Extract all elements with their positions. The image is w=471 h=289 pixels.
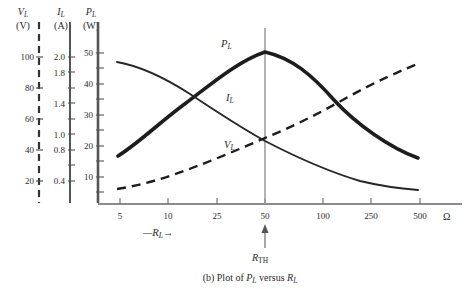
caption-subscript-rl: L xyxy=(293,276,297,285)
axis-header-il-subscript: L xyxy=(61,10,65,19)
figure-caption: (b) Plot of PL versus RL xyxy=(130,272,370,285)
il-tick-label-0-8: 0.8 xyxy=(43,146,65,155)
x-tick-label-50: 50 xyxy=(251,212,279,221)
figure-plot-pl-versus-rl: VL (V) IL (A) PL (W) 100 80 60 40 20 2.0… xyxy=(0,0,471,289)
x-tick-label-250: 250 xyxy=(357,212,385,221)
axis-header-pl-unit: (W) xyxy=(74,20,108,31)
series-curve-il xyxy=(117,62,418,190)
il-tick-label-1-8: 1.8 xyxy=(43,69,65,78)
caption-prefix: (b) Plot of xyxy=(203,272,247,283)
curve-label-vl-subscript: L xyxy=(230,143,234,152)
curve-label-vl: VL xyxy=(224,139,235,152)
axis-header-il: IL (A) xyxy=(44,6,78,31)
vl-tick-label-80: 80 xyxy=(8,84,34,93)
rth-marker-label: RTH xyxy=(252,252,268,265)
x-axis-unit-ohm: Ω xyxy=(443,211,450,222)
axis-header-pl-subscript: L xyxy=(92,10,96,19)
axis-header-il-unit: (A) xyxy=(44,20,78,31)
vl-tick-label-20: 20 xyxy=(8,177,34,186)
plot-canvas xyxy=(0,0,471,289)
axis-header-pl: PL (W) xyxy=(74,6,108,31)
il-tick-label-0-4: 0.4 xyxy=(43,177,65,186)
rth-marker-subscript: TH xyxy=(258,256,268,265)
curve-label-pl: PL xyxy=(221,38,232,51)
pl-tick-label-40: 40 xyxy=(73,80,93,89)
curve-label-il: IL xyxy=(226,92,234,105)
x-tick-label-5: 5 xyxy=(106,212,134,221)
x-axis-ticks xyxy=(120,198,420,204)
pl-tick-label-10: 10 xyxy=(73,173,93,182)
pl-tick-label-20: 20 xyxy=(73,142,93,151)
x-tick-label-100: 100 xyxy=(309,212,337,221)
series-curve-pl xyxy=(118,52,418,158)
rth-marker-arrowhead xyxy=(262,224,269,233)
curve-label-pl-subscript: L xyxy=(227,42,231,51)
caption-middle: versus xyxy=(257,272,288,283)
il-tick-label-1-4: 1.4 xyxy=(43,100,65,109)
curve-label-il-subscript: L xyxy=(230,96,234,105)
pl-tick-label-50: 50 xyxy=(73,49,93,58)
x-axis-title-suffix: → xyxy=(163,227,174,238)
il-tick-label-1-0: 1.0 xyxy=(43,131,65,140)
x-axis-title: —RL→ xyxy=(143,227,173,240)
x-axis-title-prefix: — xyxy=(143,227,152,238)
axis-header-vl-subscript: L xyxy=(24,10,28,19)
vl-tick-label-60: 60 xyxy=(8,115,34,124)
vl-tick-label-100: 100 xyxy=(8,53,34,62)
x-tick-label-10: 10 xyxy=(154,212,182,221)
il-tick-label-2-0: 2.0 xyxy=(43,53,65,62)
x-tick-label-25: 25 xyxy=(203,212,231,221)
series-curve-vl xyxy=(117,63,420,189)
vl-tick-label-40: 40 xyxy=(8,146,34,155)
axis-header-vl-unit: (V) xyxy=(2,20,44,31)
axis-header-vl: VL (V) xyxy=(2,6,44,31)
pl-axis-ticks xyxy=(96,53,104,192)
x-tick-label-500: 500 xyxy=(406,212,434,221)
pl-tick-label-30: 30 xyxy=(73,111,93,120)
vl-axis-ticks xyxy=(36,57,43,181)
